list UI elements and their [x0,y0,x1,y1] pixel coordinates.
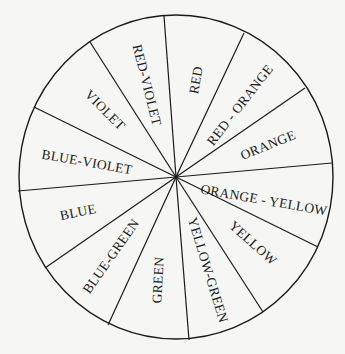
sector-label-red: RED [186,65,206,95]
sector-label-blue-green: BLUE-GREEN [80,216,143,296]
sector-divider-line [176,163,332,177]
sector-label-green: GREEN [149,256,166,303]
sector-label-red-orange: RED - ORANGE [204,62,276,149]
sector-label-yellow-green: YELLOW-GREEN [185,216,231,325]
sector-label-yellow: YELLOW [226,218,280,268]
sector-divider-line [164,16,176,177]
sector-divider-line [18,177,176,191]
sector-label-red-violet: RED-VIOLET [130,43,165,128]
sector-label-violet: VIOLET [82,87,129,134]
sector-label-blue: BLUE [59,201,98,223]
sector-label-orange: ORANGE [238,127,297,163]
sector-divider-line [176,177,189,340]
sector-label-orange-yellow: ORANGE - YELLOW [199,181,328,218]
color-wheel-diagram: REDRED - ORANGEORANGEORANGE - YELLOWYELL… [0,0,345,354]
sector-label-blue-violet: BLUE-VIOLET [41,147,134,178]
